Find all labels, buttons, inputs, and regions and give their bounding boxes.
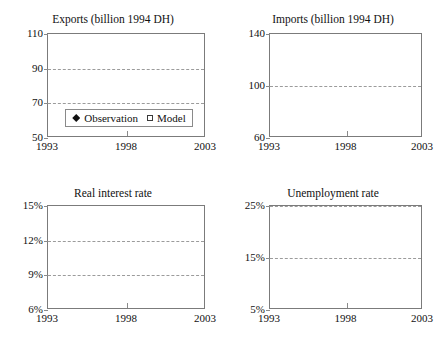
marker-observation [166, 53, 174, 61]
ytick-label-70: 70 [3, 97, 43, 108]
marker-model [106, 264, 112, 270]
marker-model [278, 216, 284, 222]
marker-observation [293, 215, 301, 223]
marker-observation [277, 99, 285, 107]
legend-entry-observation: Observation [72, 113, 138, 124]
marker-observation [308, 97, 316, 105]
xtick-label-2003: 2003 [392, 141, 441, 152]
xtick-label-1993: 1993 [17, 141, 77, 152]
marker-observation [56, 98, 64, 106]
marker-observation [355, 216, 363, 224]
marker-model [309, 207, 315, 213]
gridline-y-9 [48, 275, 204, 276]
marker-model [153, 64, 159, 70]
marker-observation [120, 74, 128, 82]
legend-entry-model: Model [147, 113, 186, 124]
ytick-label-6: 6% [3, 304, 43, 315]
marker-observation [293, 95, 301, 103]
marker-observation [371, 54, 379, 62]
marker-model [278, 100, 284, 106]
marker-model [401, 65, 407, 71]
marker-model [326, 236, 332, 242]
marker-model [294, 225, 300, 231]
marker-model [72, 267, 78, 273]
ytick-label-12: 12% [3, 235, 43, 246]
ytick-70 [44, 103, 48, 104]
xtick-1998 [347, 131, 348, 136]
gridline-y-70 [48, 103, 204, 104]
marker-model [372, 72, 378, 78]
marker-model [57, 99, 63, 105]
xtick-1998 [347, 303, 348, 308]
marker-model [137, 263, 143, 269]
chart-panel-bottom-left: Real interest rate6%9%12%15%199319982003 [0, 0, 441, 347]
gridline-y-12 [48, 241, 204, 242]
panel-title-top-right: Imports (billion 1994 DH) [238, 12, 428, 26]
chart-panel-top-right: Imports (billion 1994 DH)601001401993199… [0, 0, 441, 347]
ytick-90 [44, 69, 48, 70]
ytick-9 [44, 275, 48, 276]
marker-observation [87, 264, 95, 272]
gridline-y-90 [48, 69, 204, 70]
open-square-icon [147, 115, 153, 121]
xtick-1998 [127, 303, 128, 308]
plot-area-top-right [269, 33, 422, 137]
marker-model [183, 56, 189, 62]
marker-model [341, 82, 347, 88]
legend-label-model: Model [157, 113, 186, 124]
ytick-label-60: 60 [225, 132, 265, 143]
marker-model [309, 98, 315, 104]
marker-observation [355, 83, 363, 91]
ytick-12 [44, 241, 48, 242]
xtick-label-2003: 2003 [175, 313, 235, 324]
marker-observation [152, 54, 160, 62]
ytick-label-15: 15% [3, 200, 43, 211]
ytick-label-100: 100 [225, 80, 265, 91]
marker-model [385, 254, 391, 260]
ytick-label-140: 140 [225, 28, 265, 39]
legend-label-observation: Observation [84, 113, 138, 124]
marker-model [183, 259, 189, 265]
ytick-6 [44, 310, 48, 311]
marker-observation [152, 240, 160, 248]
marker-observation [384, 55, 392, 63]
marker-observation [136, 231, 144, 239]
marker-model [341, 232, 347, 238]
ytick-5 [266, 310, 270, 311]
ytick-100 [266, 86, 270, 87]
ytick-25 [266, 206, 270, 207]
marker-model [88, 97, 94, 103]
ytick-110 [44, 34, 48, 35]
marker-model [121, 264, 127, 270]
ytick-15 [266, 258, 270, 259]
xtick-label-2003: 2003 [392, 313, 441, 324]
panel-title-bottom-right: Unemployment rate [238, 186, 428, 200]
marker-model [121, 78, 127, 84]
marker-observation [400, 237, 408, 245]
marker-observation [56, 265, 64, 273]
ytick-label-9: 9% [3, 269, 43, 280]
ytick-label-25: 25% [225, 200, 265, 211]
marker-model [294, 101, 300, 107]
xtick-label-1993: 1993 [239, 313, 299, 324]
marker-model [372, 236, 378, 242]
ytick-label-5: 5% [225, 304, 265, 315]
xtick-label-1993: 1993 [17, 313, 77, 324]
marker-observation [400, 47, 408, 55]
marker-observation [308, 238, 316, 246]
marker-model [356, 236, 362, 242]
marker-observation [136, 63, 144, 71]
ytick-label-90: 90 [3, 63, 43, 74]
marker-model [72, 101, 78, 107]
marker-model [356, 84, 362, 90]
marker-observation [105, 77, 113, 85]
marker-model [137, 76, 143, 82]
xtick-label-1998: 1998 [316, 313, 376, 324]
xtick-label-1993: 1993 [239, 141, 299, 152]
ytick-140 [266, 34, 270, 35]
chart-panel-top-left: Exports (billion 1994 DH)507090110199319… [0, 0, 441, 347]
figure-four-panel-scatter: Exports (billion 1994 DH)507090110199319… [0, 0, 441, 347]
marker-observation [325, 245, 333, 253]
marker-observation [325, 89, 333, 97]
ytick-label-50: 50 [3, 132, 43, 143]
